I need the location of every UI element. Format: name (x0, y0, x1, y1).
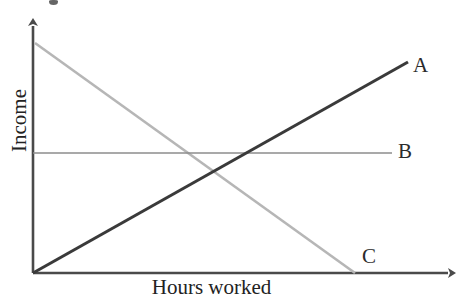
series-label-b: B (398, 141, 412, 162)
x-axis-title-text: Hours worked (152, 275, 272, 299)
y-axis-title: Income (9, 76, 30, 166)
series-label-a: A (413, 55, 428, 76)
income-vs-hours-chart: A B C Hours worked Income (0, 0, 467, 304)
series-label-c: C (362, 246, 376, 267)
series-line-c (35, 43, 355, 273)
series-line-a (33, 62, 408, 273)
chart-plot-area (0, 0, 467, 304)
x-axis-title: Hours worked (0, 277, 467, 298)
